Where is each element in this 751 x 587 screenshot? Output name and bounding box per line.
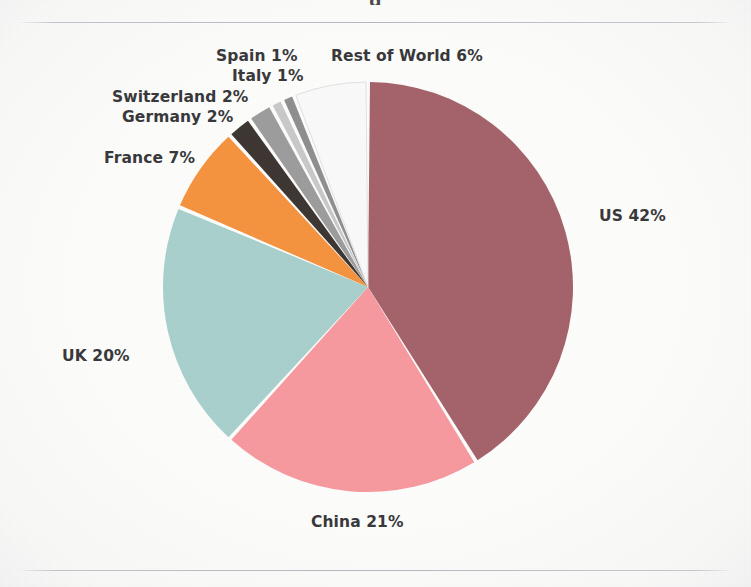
pie-label-china: China 21% bbox=[311, 514, 404, 531]
scanned-page: g Spain 1% Italy 1% Switzerland 2% Germa… bbox=[0, 0, 751, 587]
pie-label-switzerland: Switzerland 2% bbox=[112, 89, 248, 106]
pie-label-germany: Germany 2% bbox=[122, 109, 233, 126]
pie-label-italy: Italy 1% bbox=[232, 68, 304, 85]
pie-label-uk: UK 20% bbox=[62, 348, 130, 365]
pie-label-us: US 42% bbox=[599, 208, 666, 225]
pie-label-france: France 7% bbox=[104, 150, 195, 167]
pie-label-rest-of-world: Rest of World 6% bbox=[331, 48, 483, 65]
pie-slice-group bbox=[163, 82, 573, 492]
pie-label-spain: Spain 1% bbox=[216, 48, 298, 65]
pie-chart: Spain 1% Italy 1% Switzerland 2% Germany… bbox=[0, 0, 751, 587]
